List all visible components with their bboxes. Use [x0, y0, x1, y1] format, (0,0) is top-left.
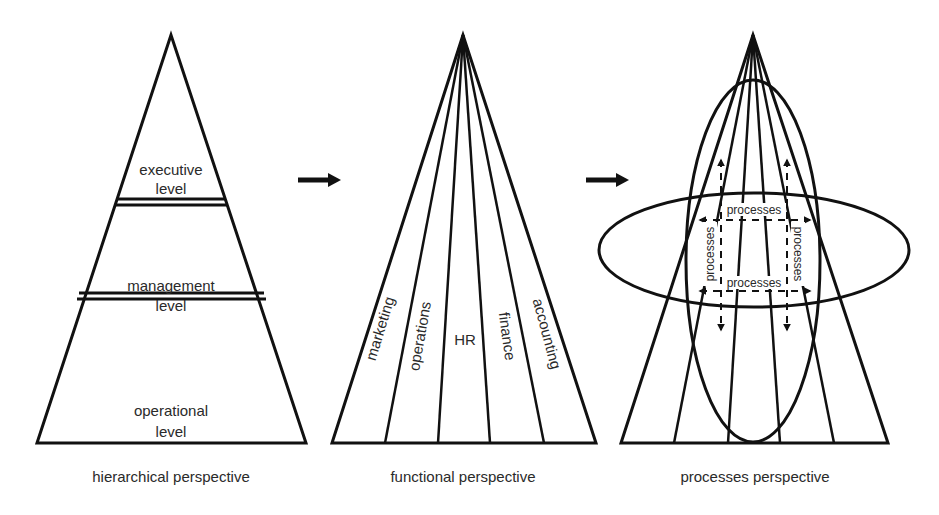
- functional-triangle: [332, 35, 596, 443]
- function-label-finance: finance: [496, 311, 520, 361]
- function-divider: [463, 35, 490, 443]
- operational-level-label-1: operational: [134, 402, 208, 419]
- process-label-right: processes: [791, 227, 805, 282]
- management-level-label-1: management: [127, 277, 215, 294]
- executive-level-label-1: executive: [139, 161, 202, 178]
- hierarchical-caption: hierarchical perspective: [92, 468, 250, 485]
- function-divider: [463, 35, 544, 443]
- function-divider: [753, 35, 780, 443]
- hierarchical-panel: executive level management level operati…: [37, 35, 306, 485]
- diagram-canvas: executive level management level operati…: [0, 0, 939, 515]
- management-level-label-2: level: [156, 297, 187, 314]
- process-label-top: processes: [727, 203, 782, 217]
- process-label-left: processes: [703, 227, 717, 282]
- hierarchy-triangle: [37, 35, 306, 443]
- process-label-bottom: processes: [727, 276, 782, 290]
- right-arrow-icon: [586, 173, 629, 187]
- function-label-hr: HR: [454, 331, 476, 348]
- executive-level-label-2: level: [156, 180, 187, 197]
- processes-triangle: [621, 35, 888, 443]
- functional-caption: functional perspective: [390, 468, 535, 485]
- operational-level-label-2: level: [156, 423, 187, 440]
- functional-panel: marketing operations HR finance accounti…: [332, 35, 596, 485]
- processes-panel: processes processes processes processes …: [599, 35, 909, 485]
- right-arrow-icon: [298, 173, 341, 187]
- processes-caption: processes perspective: [680, 468, 829, 485]
